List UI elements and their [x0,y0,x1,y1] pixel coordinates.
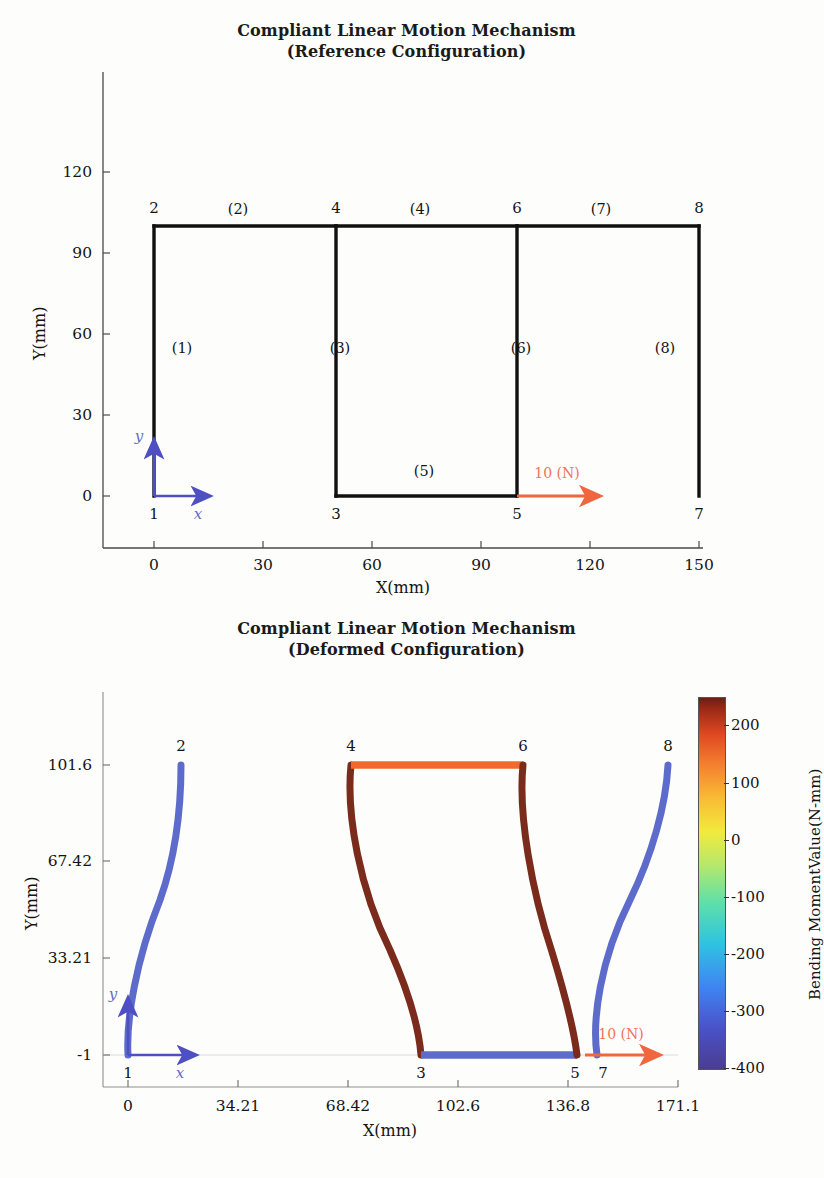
reference-structure-frame [154,226,699,496]
deformed-node-1: 1 [123,1064,133,1082]
deformed-node-5: 5 [570,1064,580,1082]
colorbar-tick-mark-m100 [724,897,729,898]
deformed-xtick-0: 0 [123,1097,133,1115]
deformed-x-tick-marks [128,1080,678,1087]
deformed-node-4: 4 [346,737,356,755]
deformed-xtick-102-6: 102.6 [436,1097,480,1115]
reference-local-x-label: x [194,505,202,523]
reference-ytick-120: 120 [52,163,92,181]
reference-xtick-120: 120 [575,556,605,574]
reference-ytick-0: 0 [52,487,92,505]
reference-node-1: 1 [149,505,159,523]
reference-y-tick-marks [103,172,110,496]
deformed-node-8: 8 [663,737,673,755]
deformed-xtick-136-8: 136.8 [546,1097,590,1115]
deformed-element-3 [350,765,421,1055]
colorbar-tick-mark-m200 [724,954,729,955]
reference-element-label-8: (8) [655,340,676,356]
reference-element-label-4: (4) [410,201,431,217]
deformed-configuration-panel: Compliant Linear Motion Mechanism (Defor… [0,600,813,1178]
reference-plot-svg [0,0,813,600]
deformed-xtick-171-1: 171.1 [656,1097,700,1115]
colorbar-tick-m200: -200 [731,945,765,963]
colorbar-tick-mark-100 [724,783,729,784]
reference-node-5: 5 [512,505,522,523]
deformed-node-6: 6 [518,737,528,755]
deformed-local-axes [128,998,196,1055]
reference-element-label-1: (1) [172,340,193,356]
deformed-local-x-label: x [176,1064,184,1082]
colorbar-tick-m300: -300 [731,1002,765,1020]
colorbar-tick-mark-200 [724,725,729,726]
reference-x-tick-marks [154,541,699,548]
reference-node-6: 6 [512,199,522,217]
reference-local-y-label: y [135,427,143,445]
reference-element-label-5: (5) [414,463,435,479]
reference-node-7: 7 [694,505,704,523]
colorbar-tick-200: 200 [731,716,760,734]
reference-xtick-90: 90 [471,556,491,574]
colorbar-tick-0: 0 [731,831,741,849]
colorbar-axis-label: Bending MomentValue(N-mm) [806,769,824,1000]
deformed-element-8 [596,765,668,1055]
deformed-force-label: 10 (N) [598,1026,643,1042]
deformed-local-y-label: y [109,985,117,1003]
reference-ytick-30: 30 [52,406,92,424]
deformed-node-3: 3 [416,1064,426,1082]
reference-ytick-60: 60 [52,325,92,343]
reference-element-label-3: (3) [330,340,351,356]
deformed-node-2: 2 [176,737,186,755]
reference-configuration-panel: Compliant Linear Motion Mechanism (Refer… [0,0,813,600]
deformed-ytick-minus1: -1 [22,1046,92,1064]
reference-element-label-2: (2) [228,201,249,217]
reference-y-axis-label: Y(mm) [30,307,49,360]
reference-x-axis-label: X(mm) [376,578,430,597]
colorbar-tick-mark-m400 [724,1068,729,1069]
reference-ytick-90: 90 [52,244,92,262]
reference-element-label-7: (7) [591,201,612,217]
reference-node-4: 4 [331,199,341,217]
deformed-xtick-68-42: 68.42 [326,1097,370,1115]
reference-local-axes [154,440,210,496]
deformed-node-7: 7 [598,1064,608,1082]
reference-element-label-6: (6) [511,340,532,356]
reference-xtick-60: 60 [362,556,382,574]
colorbar-gradient [698,697,726,1070]
reference-node-2: 2 [149,199,159,217]
reference-xtick-150: 150 [684,556,714,574]
reference-node-8: 8 [694,199,704,217]
reference-node-3: 3 [331,505,341,523]
deformed-element-1 [128,765,181,1055]
colorbar-tick-100: 100 [731,774,760,792]
reference-xtick-0: 0 [149,556,159,574]
colorbar-tick-m100: -100 [731,888,765,906]
colorbar-tick-mark-m300 [724,1011,729,1012]
reference-force-label: 10 (N) [534,465,579,481]
deformed-y-tick-marks [103,765,110,1055]
colorbar-tick-mark-0 [724,840,729,841]
deformed-y-axis-label: Y(mm) [22,877,41,930]
reference-xtick-30: 30 [253,556,273,574]
deformed-x-axis-label: X(mm) [363,1121,417,1140]
deformed-plot-svg [0,600,813,1178]
deformed-element-6 [522,765,577,1055]
deformed-xtick-34-21: 34.21 [216,1097,260,1115]
deformed-ytick-101-6: 101.6 [22,756,92,774]
deformed-ytick-33-21: 33.21 [22,949,92,967]
colorbar-tick-m400: -400 [731,1059,765,1077]
deformed-ytick-67-42: 67.42 [22,852,92,870]
